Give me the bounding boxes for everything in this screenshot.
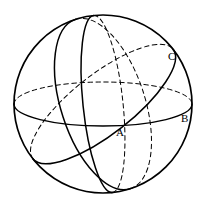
vertex-label-b: B	[181, 113, 188, 124]
sphere-drawing-canvas	[0, 0, 209, 211]
vertex-label-c: C	[168, 51, 175, 62]
vertex-label-a: A	[116, 127, 124, 138]
canvas-background	[0, 0, 209, 211]
spherical-diagram-figure: A B C	[0, 0, 209, 211]
